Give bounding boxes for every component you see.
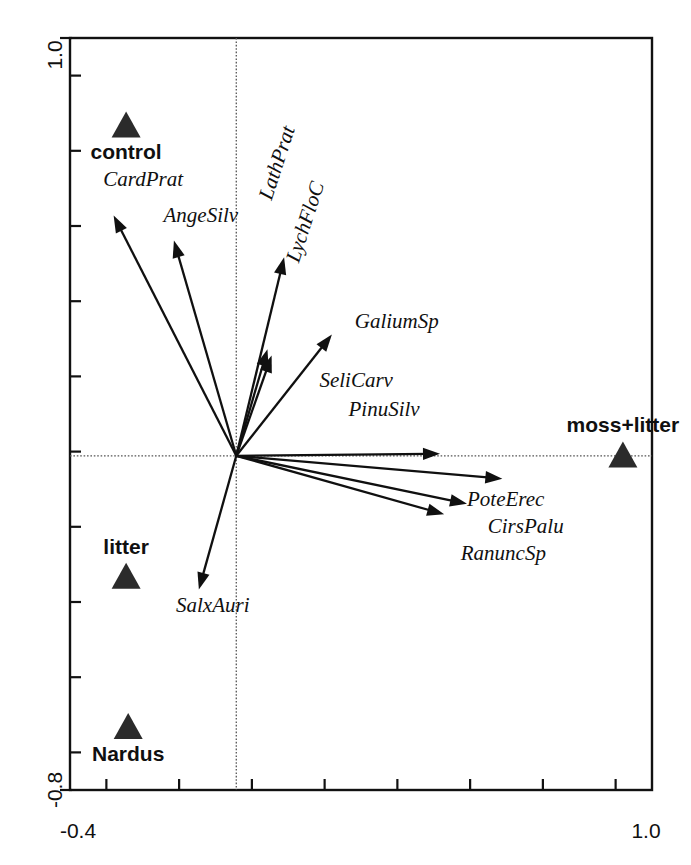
species-label: RanuncSp [460,541,546,565]
biplot-svg: CardPratAngeSilvLathPratLychFloCSeliCarv… [0,0,691,865]
species-label: GaliumSp [355,309,439,333]
site-marker-triangle [114,713,143,739]
site-marker-triangle [112,111,141,137]
y-axis-min-label: -0.8 [43,772,66,808]
label-group: CardPratAngeSilvLathPratLychFloCSeliCarv… [91,122,680,765]
site-marker-triangle [608,441,637,467]
site-label: control [91,140,162,163]
species-label: PinuSilv [348,397,421,421]
x-axis-min-label: -0.4 [60,819,97,842]
site-marker-triangle [112,563,141,589]
x-axis-max-label: 1.0 [631,819,660,842]
species-label: CardPrat [103,167,184,191]
species-label: LathPrat [253,122,300,204]
species-label: SalxAuri [176,593,250,617]
species-label: PoteErec [466,487,545,511]
site-label: litter [103,535,149,558]
species-label: SeliCarv [319,368,393,392]
site-label: Nardus [92,742,164,765]
site-label: moss+litter [567,413,680,436]
species-arrow-group [114,216,503,590]
species-label: CirsPalu [488,514,564,538]
y-axis-max-label: 1.0 [43,40,66,69]
species-arrow [236,456,502,484]
species-arrow [236,356,272,456]
species-label: LychFloC [280,178,329,267]
species-label: AngeSilv [162,203,239,227]
species-arrow [197,456,236,590]
species-arrow [236,456,467,507]
ordination-biplot: CardPratAngeSilvLathPratLychFloCSeliCarv… [0,0,691,865]
